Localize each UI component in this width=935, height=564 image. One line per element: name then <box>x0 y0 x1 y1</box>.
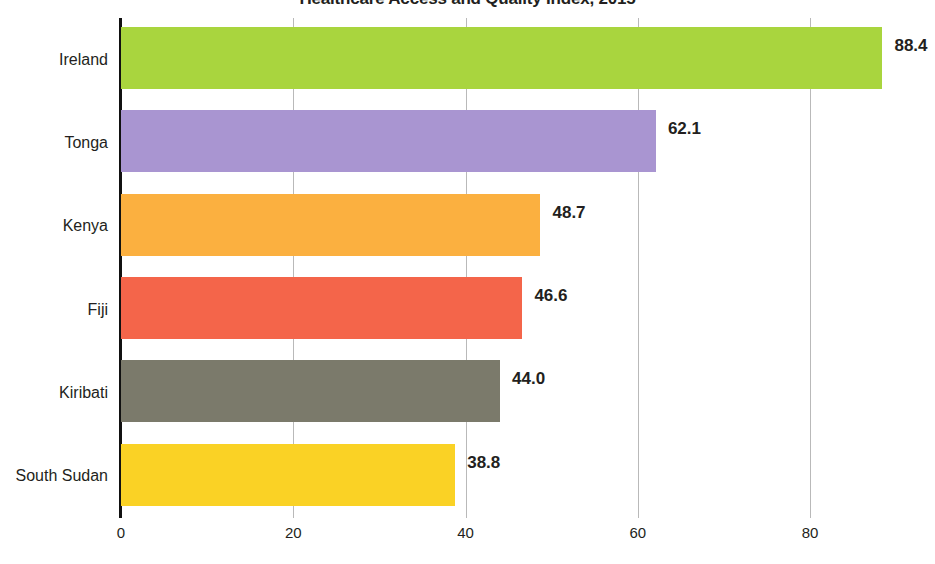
bar-value-label: 62.1 <box>668 119 701 139</box>
category-label: Kiribati <box>0 384 108 402</box>
bar-value-label: 44.0 <box>512 369 545 389</box>
bar-chart: Healthcare Access and Quality Index, 201… <box>0 0 935 564</box>
bar-row: 88.4 <box>121 18 935 98</box>
tick-label: 20 <box>285 524 302 541</box>
tick-label: 40 <box>457 524 474 541</box>
bar[interactable] <box>121 194 540 256</box>
bar[interactable] <box>121 27 882 89</box>
bar-row: 38.8 <box>121 435 935 515</box>
chart-title: Healthcare Access and Quality Index, 201… <box>0 0 935 9</box>
bar-row: 48.7 <box>121 185 935 265</box>
category-label: Kenya <box>0 217 108 235</box>
plot-area: 88.462.148.746.644.038.8 <box>121 18 935 518</box>
bar[interactable] <box>121 277 522 339</box>
category-label: Tonga <box>0 134 108 152</box>
bar-value-label: 48.7 <box>552 203 585 223</box>
bar[interactable] <box>121 444 455 506</box>
category-label: Fiji <box>0 301 108 319</box>
bar[interactable] <box>121 110 656 172</box>
tick-label: 60 <box>629 524 646 541</box>
bar-row: 44.0 <box>121 351 935 431</box>
tick-label: 80 <box>802 524 819 541</box>
bar-value-label: 88.4 <box>894 36 927 56</box>
bar-row: 62.1 <box>121 101 935 181</box>
bar[interactable] <box>121 360 500 422</box>
bar-value-label: 38.8 <box>467 453 500 473</box>
category-label: Ireland <box>0 51 108 69</box>
bar-row: 46.6 <box>121 268 935 348</box>
category-label: South Sudan <box>0 467 108 485</box>
bar-value-label: 46.6 <box>534 286 567 306</box>
tick-label: 0 <box>117 524 125 541</box>
